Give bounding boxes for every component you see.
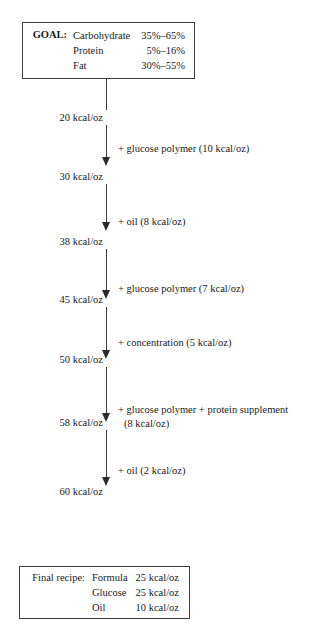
- flow-edge-line: (8 kcal/oz): [118, 417, 288, 431]
- flow-node-label: 60 kcal/oz: [60, 487, 103, 498]
- flow-node-label: 58 kcal/oz: [60, 418, 103, 429]
- flow-edge-label: + glucose polymer (10 kcal/oz): [118, 142, 249, 156]
- flow-edge-line: + glucose polymer (7 kcal/oz): [118, 282, 244, 296]
- flow-edge-label: + glucose polymer (7 kcal/oz): [118, 282, 244, 296]
- flow-edge-line: + glucose polymer (10 kcal/oz): [118, 142, 249, 156]
- flow-edge-label: + oil (8 kcal/oz): [118, 215, 185, 229]
- flow-edge-line: + glucose polymer + protein supplement: [118, 403, 288, 417]
- final-recipe-amount: 25 kcal/oz: [129, 570, 189, 585]
- final-recipe-amount: 25 kcal/oz: [129, 585, 189, 600]
- table-row: Glucose 25 kcal/oz: [92, 585, 189, 600]
- final-recipe-item: Oil: [92, 600, 129, 615]
- connector-segment: [106, 184, 107, 224]
- flow-edge-line: + oil (2 kcal/oz): [118, 464, 185, 478]
- connector-segment: [106, 249, 107, 292]
- final-recipe-amount: 10 kcal/oz: [129, 600, 189, 615]
- arrow-head-icon: [102, 157, 110, 166]
- table-row: Oil 10 kcal/oz: [92, 600, 189, 615]
- connector-segment: [106, 307, 107, 352]
- flow-edge-line: + oil (8 kcal/oz): [118, 215, 185, 229]
- flow-edge-label: + oil (2 kcal/oz): [118, 464, 185, 478]
- flow-chain: 20 kcal/oz + glucose polymer (10 kcal/oz…: [0, 0, 317, 635]
- final-recipe-rows: Formula 25 kcal/oz Glucose 25 kcal/oz Oi…: [92, 567, 189, 618]
- arrow-head-icon: [102, 413, 110, 422]
- arrow-head-icon: [102, 477, 110, 486]
- arrow-head-icon: [102, 290, 110, 299]
- diagram-canvas: GOAL: Carbohydrate 35%–65% Protein 5%–16…: [0, 0, 317, 635]
- connector-segment: [106, 79, 107, 110]
- flow-edge-label: + glucose polymer + protein supplement (…: [118, 403, 288, 431]
- final-recipe-item: Formula: [92, 570, 129, 585]
- arrow-head-icon: [102, 350, 110, 359]
- flow-edge-label: + concentration (5 kcal/oz): [118, 336, 232, 350]
- flow-node-label: 20 kcal/oz: [60, 113, 103, 124]
- flow-edge-line: + concentration (5 kcal/oz): [118, 336, 232, 350]
- connector-segment: [106, 430, 107, 479]
- flow-node-label: 45 kcal/oz: [60, 295, 103, 306]
- final-recipe-table: Final recipe: Formula 25 kcal/oz Glucose…: [20, 567, 189, 618]
- final-recipe-label: Final recipe:: [20, 567, 92, 618]
- final-recipe-item: Glucose: [92, 585, 129, 600]
- arrow-head-icon: [102, 222, 110, 231]
- connector-segment: [106, 125, 107, 159]
- flow-node-label: 30 kcal/oz: [60, 172, 103, 183]
- final-recipe-box: Final recipe: Formula 25 kcal/oz Glucose…: [19, 566, 190, 619]
- flow-node-label: 38 kcal/oz: [60, 237, 103, 248]
- table-row: Formula 25 kcal/oz: [92, 570, 189, 585]
- flow-node-label: 50 kcal/oz: [60, 355, 103, 366]
- connector-segment: [106, 367, 107, 415]
